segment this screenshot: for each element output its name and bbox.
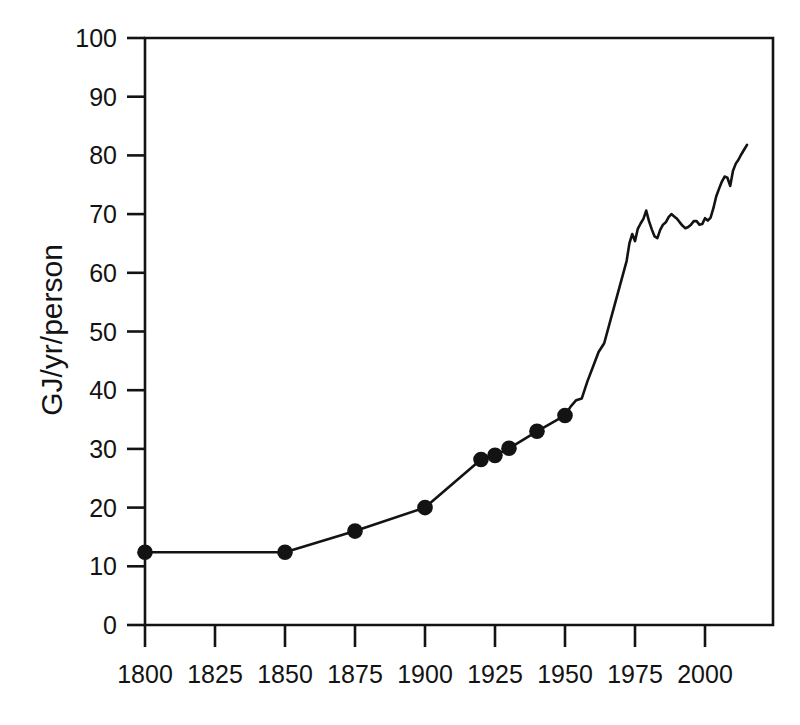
x-tick-label: 2000 xyxy=(677,660,733,688)
y-axis-title-group: GJ/yr/person xyxy=(35,244,68,416)
data-point-marker xyxy=(487,448,503,464)
data-point-marker xyxy=(557,408,573,424)
x-tick-label: 1950 xyxy=(537,660,593,688)
x-tick-label: 1975 xyxy=(607,660,663,688)
axis-frame xyxy=(145,38,773,625)
data-point-marker xyxy=(473,452,489,468)
y-tick-label: 0 xyxy=(103,611,117,639)
plot-frame xyxy=(145,38,773,625)
y-tick-label: 90 xyxy=(89,83,117,111)
y-tick-label: 70 xyxy=(89,200,117,228)
y-tick-label: 20 xyxy=(89,494,117,522)
x-tick-label: 1925 xyxy=(467,660,523,688)
y-tick-label: 10 xyxy=(89,552,117,580)
data-point-marker xyxy=(417,500,433,516)
y-tick-label: 40 xyxy=(89,376,117,404)
y-tick-label: 30 xyxy=(89,435,117,463)
data-point-marker xyxy=(529,423,545,439)
x-tick-label: 1825 xyxy=(187,660,243,688)
line-chart: 0102030405060708090100 18001825185018751… xyxy=(0,0,800,725)
y-tick-label: 60 xyxy=(89,259,117,287)
chart-container: 0102030405060708090100 18001825185018751… xyxy=(0,0,800,725)
y-axis-title: GJ/yr/person xyxy=(35,244,68,416)
x-axis-tick-labels: 180018251850187519001925195019752000 xyxy=(117,660,733,688)
series-markers xyxy=(137,408,573,560)
series-group xyxy=(137,145,747,560)
y-tick-label: 100 xyxy=(75,24,117,52)
data-point-marker xyxy=(277,544,293,560)
data-point-marker xyxy=(347,523,363,539)
y-tick-label: 50 xyxy=(89,318,117,346)
data-point-marker xyxy=(137,544,153,560)
y-axis-ticks xyxy=(127,38,145,625)
x-tick-label: 1800 xyxy=(117,660,173,688)
x-axis-ticks xyxy=(145,625,705,647)
y-axis-tick-labels: 0102030405060708090100 xyxy=(75,24,117,639)
series-line-global-energy xyxy=(145,145,747,552)
x-tick-label: 1850 xyxy=(257,660,313,688)
x-tick-label: 1900 xyxy=(397,660,453,688)
x-tick-label: 1875 xyxy=(327,660,383,688)
data-point-marker xyxy=(501,441,517,457)
y-tick-label: 80 xyxy=(89,141,117,169)
